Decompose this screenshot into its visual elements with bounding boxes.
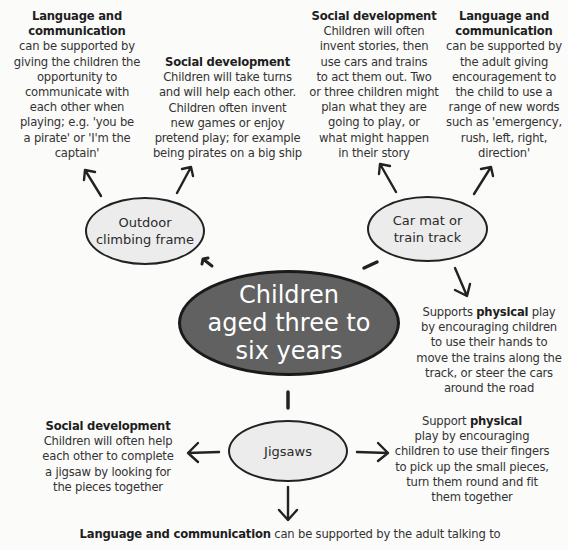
node-car-mat-train-track: Car mat or train track [367,196,488,262]
note-line: pretend play; for example [155,131,301,145]
note-line: Children will often [324,24,425,38]
note-suffix: play [528,305,555,319]
arrow-outdoor-language [84,170,101,196]
note-line: Children will take turns [163,70,292,84]
note-suffix: can be supported by the adult talking to [271,527,501,541]
note-line: or three children might [309,85,438,99]
note-line: to use their hands to [431,335,548,349]
note-line: plan what they are [321,100,427,114]
note-outdoor-social: Social development Children will take tu… [150,55,305,161]
note-line: each other to complete [42,449,173,463]
note-line: new games or enjoy [171,116,285,130]
note-heading: Social development [34,419,182,434]
note-line: around the road [444,381,534,395]
note-line: giving the children the [14,55,140,69]
note-line: what might happen [319,131,429,145]
note-line: going to play, or [328,115,420,129]
arrow-central-outdoor [202,258,212,266]
node-label-line: climbing frame [96,232,194,247]
note-line: and will help each other. [159,85,296,99]
central-label-line: six years [235,337,342,365]
note-line: move the trains along the [416,351,561,365]
arrow-outdoor-social [177,167,193,193]
note-line: can be supported by [19,39,135,53]
note-line: the pieces together [53,480,163,494]
central-node: Children aged three to six years [178,270,400,376]
note-carmat-social: Social development Children will often i… [305,9,443,161]
central-label-line: aged three to [208,309,371,337]
note-line: track, or steer the cars [425,366,553,380]
note-line: by encouraging children [421,320,557,334]
note-outdoor-language: Language and communication can be suppor… [4,9,150,161]
note-jigsaw-language: Language and communication can be suppor… [60,527,520,542]
note-prefix: Supports [422,305,476,319]
node-label-line: Outdoor [118,215,171,230]
note-prefix: Support [422,414,470,428]
note-line: children to use their fingers [395,444,550,458]
note-line: turn them round and fit [406,475,538,489]
note-line: use cars and trains [321,55,428,69]
arrow-central-carmat [364,262,377,268]
node-jigsaws: Jigsaws [228,420,348,482]
note-line: communicate with [25,85,129,99]
note-line: each other when [30,100,125,114]
note-heading: Language and communication [440,9,568,39]
note-carmat-language: Language and communication can be suppor… [440,9,568,161]
node-outdoor-climbing-frame: Outdoor climbing frame [85,197,205,265]
note-line: playing; e.g. 'you be [20,115,134,129]
note-line: encouragement to [452,70,556,84]
node-label-line: train track [394,230,461,245]
arrow-jigsaw-social [188,443,219,462]
note-carmat-physical: Supports physical play by encouraging ch… [405,305,568,396]
note-line: to act them out. Two [316,70,431,84]
note-line: being pirates on a big ship [153,146,302,160]
arrow-carmat-social [379,164,396,192]
note-line: range of new words [449,100,560,114]
note-line: a jigsaw by looking for [45,465,171,479]
note-bold: physical [470,414,522,428]
arrow-jigsaw-physical [357,443,388,461]
note-line: Children often invent [169,101,287,115]
note-line: the adult giving [460,55,548,69]
note-line: such as 'emergency, [446,115,562,129]
arrow-jigsaw-language [279,487,297,520]
central-label-line: Children [239,281,339,309]
note-line: Children will often help [44,434,173,448]
note-heading: Language and communication [4,9,150,39]
note-line: captain' [55,146,100,160]
node-label-line: Jigsaws [264,443,312,460]
note-line: play by encouraging [415,429,530,443]
note-jigsaw-physical: Support physical play by encouraging chi… [394,414,550,505]
note-heading: Social development [150,55,305,70]
note-line: rush, left, right, [461,131,547,145]
note-line: can be supported by [446,39,562,53]
note-line: opportunity to [37,70,117,84]
note-line: a pirate' or 'I'm the [24,131,131,145]
note-line: direction' [478,146,530,160]
note-heading: Social development [305,9,443,24]
note-bold: physical [476,305,528,319]
node-label-line: Car mat or [393,213,463,228]
note-bold: Language and communication [80,527,271,541]
note-line: in their story [338,146,409,160]
note-jigsaw-social: Social development Children will often h… [34,419,182,495]
note-line: them together [431,490,512,504]
note-line: to pick up the small pieces, [395,460,549,474]
note-line: invent stories, then [320,39,429,53]
arrow-carmat-language [474,167,493,194]
note-line: the child to use a [456,85,553,99]
arrow-carmat-physical [455,268,470,296]
